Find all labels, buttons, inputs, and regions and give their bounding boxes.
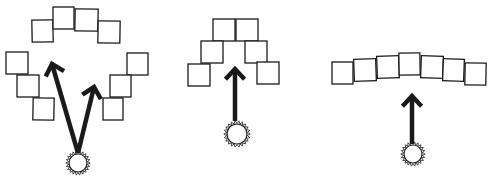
square-shape	[33, 98, 54, 120]
arrow-icon	[402, 96, 421, 144]
square-shape	[245, 41, 267, 63]
square-shape	[201, 41, 223, 63]
square-shape	[103, 98, 123, 120]
sun-icon	[401, 142, 425, 166]
square-shape	[465, 63, 486, 85]
square-shape	[32, 20, 53, 42]
square-shape	[110, 75, 131, 97]
sun-icon	[66, 151, 90, 175]
square-shape	[399, 53, 420, 75]
panel-2	[188, 19, 279, 147]
square-shape	[17, 75, 39, 97]
sun-icon	[224, 121, 250, 147]
square-shape	[127, 53, 148, 75]
square-shape	[257, 62, 279, 84]
square-shape	[236, 19, 258, 41]
arrow-icon	[225, 69, 244, 121]
square-shape	[332, 62, 353, 84]
square-shape	[421, 56, 444, 79]
square-shape	[354, 59, 377, 82]
square-shape	[443, 59, 465, 82]
square-shape	[6, 52, 28, 74]
square-shape	[75, 9, 98, 31]
diagram-svg	[0, 0, 489, 179]
square-shape	[377, 56, 400, 79]
square-shape	[53, 7, 74, 29]
arrow-icon	[78, 87, 101, 153]
panel-3	[332, 53, 486, 166]
panel-1	[6, 7, 148, 175]
diagram-canvas	[0, 0, 489, 179]
square-shape	[188, 64, 210, 86]
square-shape	[213, 19, 235, 41]
square-shape	[98, 21, 120, 43]
